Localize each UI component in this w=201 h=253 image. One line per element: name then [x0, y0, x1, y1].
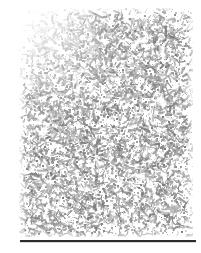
texture-plate [19, 8, 193, 237]
figure-root [0, 0, 201, 253]
bottom-horizontal-rule-shadow [20, 242, 196, 243]
texture-noise-canvas [19, 8, 193, 237]
